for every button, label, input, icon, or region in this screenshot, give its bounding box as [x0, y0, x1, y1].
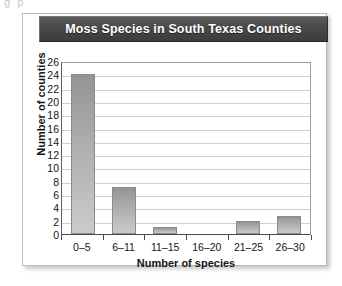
bar-slot — [269, 63, 310, 234]
y-axis-tick-label: 6 — [53, 190, 59, 201]
y-axis-tick-label: 12 — [47, 150, 59, 161]
bar — [277, 216, 301, 234]
y-axis-tick-label: 8 — [53, 177, 59, 188]
bar — [153, 227, 177, 234]
y-axis-tick-label: 20 — [47, 97, 59, 108]
bar-slot — [103, 63, 144, 234]
x-axis-tick-label: 6–11 — [103, 241, 145, 253]
x-axis-tick — [269, 235, 270, 240]
bar-slot — [186, 63, 227, 234]
chart-title: Moss Species in South Texas Counties — [65, 22, 301, 36]
y-axis-tick-label: 4 — [53, 203, 59, 214]
y-axis-tick-label: 22 — [47, 83, 59, 94]
y-axis-tick-label: 0 — [53, 230, 59, 241]
y-axis-tick-label: 24 — [47, 70, 59, 81]
x-axis-tick-label: 0–5 — [61, 241, 103, 253]
bar-slot — [145, 63, 186, 234]
chart-title-banner: Moss Species in South Texas Counties — [39, 16, 328, 42]
x-axis-tick-labels: 0–56–1111–1516–2021–2526–30 — [61, 241, 311, 253]
chart-plot-container: Number of counties 262422201816141210864… — [23, 44, 326, 265]
y-axis-tick-label: 2 — [53, 216, 59, 227]
x-axis-tick-label: 21–25 — [228, 241, 270, 253]
x-axis-tick-label: 11–15 — [144, 241, 186, 253]
bar — [236, 221, 260, 234]
bar — [71, 74, 95, 234]
y-axis-tick-label: 18 — [47, 110, 59, 121]
x-axis-tick — [144, 235, 145, 240]
x-axis-title: Number of species — [61, 257, 311, 269]
x-axis-ticks — [61, 235, 311, 240]
x-axis-tick — [103, 235, 104, 240]
y-axis-tick-label: 14 — [47, 137, 59, 148]
y-axis-tick-label: 10 — [47, 163, 59, 174]
scan-edge-fragment: g p — [4, 0, 25, 8]
plot-area — [61, 62, 311, 235]
y-axis-tick-labels: 26242220181614121086420 — [37, 62, 59, 235]
y-axis-tick-label: 26 — [47, 57, 59, 68]
x-axis-tick — [186, 235, 187, 240]
chart-figure-card: Moss Species in South Texas Counties Num… — [22, 13, 327, 266]
x-axis-tick-label: 16–20 — [186, 241, 228, 253]
x-axis-tick-label: 26–30 — [269, 241, 311, 253]
bar-slot — [227, 63, 268, 234]
y-axis-tick-label: 16 — [47, 123, 59, 134]
x-axis-tick — [61, 235, 62, 240]
bar — [112, 187, 136, 234]
bar-slot — [62, 63, 103, 234]
x-axis-tick — [228, 235, 229, 240]
bar-series — [62, 63, 310, 234]
x-axis-tick — [311, 235, 312, 240]
